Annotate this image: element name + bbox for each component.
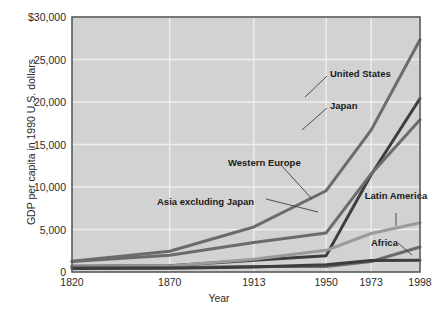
y-axis-title: GDP per capita in 1990 U.S. dollars xyxy=(25,27,37,257)
series-label-japan: Japan xyxy=(330,100,357,111)
x-axis-tick-label: 1913 xyxy=(242,276,265,288)
series-label-western-europe: Western Europe xyxy=(228,157,301,168)
x-axis-tick-label: 1998 xyxy=(408,276,431,288)
x-axis-tick-label: 1950 xyxy=(314,276,337,288)
gdp-per-capita-line-chart: $30,00025,00020,00015,00010,0005,0000 18… xyxy=(0,0,438,312)
x-axis-tick-label: 1870 xyxy=(158,276,181,288)
series-label-latin-america: Latin America xyxy=(365,190,427,201)
x-axis-tick-label: 1820 xyxy=(60,276,83,288)
x-axis-tick-label: 1973 xyxy=(359,276,382,288)
series-label-united-states: United States xyxy=(330,68,391,79)
y-axis-tick-label: $30,000 xyxy=(4,11,66,23)
y-axis-tick-label: 0 xyxy=(4,266,66,278)
series-label-asia-excluding-japan: Asia excluding Japan xyxy=(157,196,254,207)
x-axis-title: Year xyxy=(0,292,438,304)
series-label-africa: Africa xyxy=(371,237,398,248)
